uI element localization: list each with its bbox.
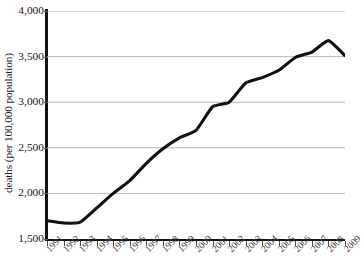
y-axis-tick-label: 2,500 — [14, 142, 44, 153]
y-axis-tick-label: 4,000 — [14, 5, 44, 16]
y-axis-title-text: deaths (per 100,000 population) — [2, 53, 14, 193]
y-axis-tick-labels: 1,5002,0002,5003,0003,5004,000 — [14, 0, 44, 245]
line-series-svg — [47, 11, 345, 239]
y-axis-tick-mark — [44, 11, 48, 12]
y-axis-tick-label: 3,000 — [14, 96, 44, 107]
plot-area — [47, 11, 345, 239]
data-line — [47, 41, 345, 223]
y-axis-tick-label: 3,500 — [14, 51, 44, 62]
y-axis-tick-mark — [44, 193, 48, 194]
y-axis-tick-mark — [44, 57, 48, 58]
y-axis-tick-mark — [44, 102, 48, 103]
y-axis-tick-mark — [44, 148, 48, 149]
x-axis-tick-labels: 1991199219931994199519961997199819992000… — [0, 247, 350, 273]
y-axis-tick-label: 2,000 — [14, 187, 44, 198]
x-axis-tick-label: 2009 — [342, 233, 362, 253]
y-axis-tick-mark — [44, 239, 48, 240]
